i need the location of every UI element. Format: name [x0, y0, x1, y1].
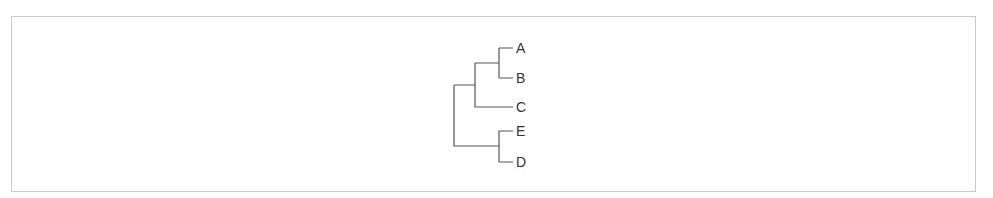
dendrogram: A B C E D [0, 0, 993, 198]
clade-abc-branch [475, 63, 513, 107]
leaf-label-d: D [516, 154, 526, 170]
root-branch [454, 85, 499, 146]
leaf-label-b: B [516, 70, 525, 86]
clade-ab-branch [499, 48, 513, 78]
clade-ed-branch [499, 131, 513, 162]
leaf-label-e: E [516, 123, 525, 139]
leaf-label-a: A [516, 40, 526, 56]
leaf-label-c: C [516, 99, 526, 115]
